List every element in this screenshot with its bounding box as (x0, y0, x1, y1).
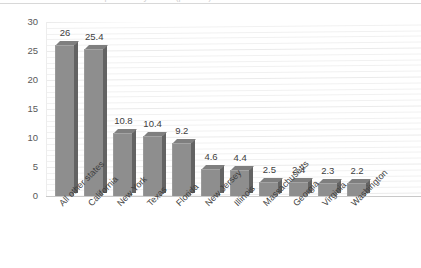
chart-title-text: Top states by share (percent) (95, 0, 225, 2)
bar-value-label: 25.4 (77, 32, 111, 42)
y-axis-tick: 5 (2, 162, 38, 172)
y-axis-tick: 20 (2, 75, 38, 85)
bar-value-label: 2.2 (340, 166, 374, 176)
bar-side-face (74, 42, 78, 193)
y-axis-tick: 30 (2, 17, 38, 27)
y-axis-tick: 15 (2, 104, 38, 114)
bar-front-face (55, 45, 74, 196)
bar-value-label: 9.2 (165, 126, 199, 136)
y-axis-tick: 10 (2, 133, 38, 143)
bar-chart: Top states by share (percent) 0510152025… (0, 0, 421, 268)
bar[interactable] (55, 40, 79, 196)
y-axis-tick: 25 (2, 46, 38, 56)
top-divider (0, 3, 421, 4)
y-axis-tick: 0 (2, 191, 38, 201)
bar-top-face (85, 45, 108, 49)
bar-top-face (173, 139, 196, 143)
bar-top-face (144, 132, 167, 136)
bar-value-label: 4.4 (223, 153, 257, 163)
